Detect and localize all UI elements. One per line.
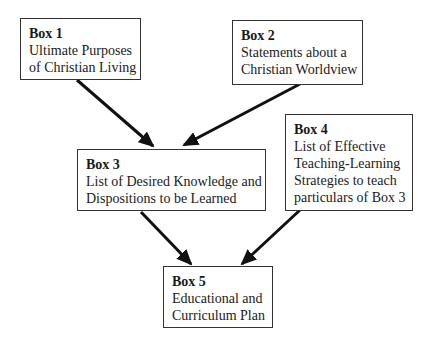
arrow-box4-to-box5	[242, 210, 300, 264]
arrow-box3-to-box5	[141, 212, 191, 264]
box-1-line: Ultimate Purposes	[29, 42, 132, 59]
box-1-title: Box 1	[29, 25, 132, 42]
box-5: Box 5 Educational and Curriculum Plan	[163, 266, 273, 328]
box-4-line: List of Effective	[294, 138, 404, 155]
box-4-line: Teaching-Learning	[294, 155, 404, 172]
box-5-line: Curriculum Plan	[172, 307, 264, 324]
box-3-line: List of Desired Knowledge and	[86, 173, 257, 190]
box-3: Box 3 List of Desired Knowledge and Disp…	[77, 149, 266, 211]
box-4: Box 4 List of Effective Teaching-Learnin…	[285, 114, 413, 211]
arrow-box1-to-box3	[77, 80, 153, 146]
box-5-line: Educational and	[172, 290, 264, 307]
box-4-title: Box 4	[294, 121, 404, 138]
box-4-line: particulars of Box 3	[294, 189, 404, 206]
box-3-title: Box 3	[86, 156, 257, 173]
box-1-line: of Christian Living	[29, 59, 132, 76]
box-2-line: Statements about a	[241, 44, 354, 61]
box-1: Box 1 Ultimate Purposes of Christian Liv…	[20, 18, 141, 80]
box-2-title: Box 2	[241, 27, 354, 44]
box-5-title: Box 5	[172, 273, 264, 290]
flow-diagram: Box 1 Ultimate Purposes of Christian Liv…	[0, 0, 432, 345]
box-3-line: Dispositions to be Learned	[86, 190, 257, 207]
box-4-line: Strategies to teach	[294, 172, 404, 189]
arrow-box2-to-box3	[184, 84, 300, 145]
box-2: Box 2 Statements about a Christian World…	[232, 20, 363, 85]
box-2-line: Christian Worldview	[241, 61, 354, 78]
